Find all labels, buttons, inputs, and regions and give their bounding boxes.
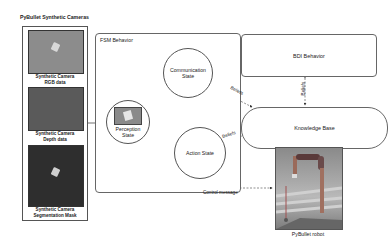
robot-image [275, 147, 343, 230]
rgb-caption: Synthetic Camera RGB data [23, 74, 87, 85]
robot-arm-icon [276, 148, 342, 229]
bdi-behavior-box: BDI Behavior [241, 34, 377, 77]
rgb-camera-image [28, 30, 84, 74]
object-patch [51, 167, 61, 177]
fsm-title: FSM Behavior [100, 37, 133, 43]
robot-caption: PyBullet robot [275, 231, 341, 237]
knowledge-base: Knowledge Base [241, 107, 388, 149]
depth-caption: Synthetic Camera Depth data [23, 131, 87, 142]
cameras-panel-title: PyBullet Synthetic Cameras [20, 14, 89, 20]
control-message-label: Control message [203, 190, 238, 195]
object-patch [51, 42, 61, 52]
communication-state: Communication State [163, 48, 213, 98]
action-state: Action State [174, 127, 226, 179]
cameras-panel: Synthetic Camera RGB data Synthetic Came… [22, 26, 88, 221]
segmentation-camera-image [28, 145, 84, 207]
segmentation-caption: Synthetic Camera Segmentation Mask [23, 207, 87, 218]
beliefs-label-bdi: Beliefs [301, 82, 306, 96]
perception-image [114, 107, 142, 125]
perception-state: Perception State [106, 100, 150, 144]
object-patch [123, 110, 133, 121]
depth-camera-image [28, 87, 84, 131]
